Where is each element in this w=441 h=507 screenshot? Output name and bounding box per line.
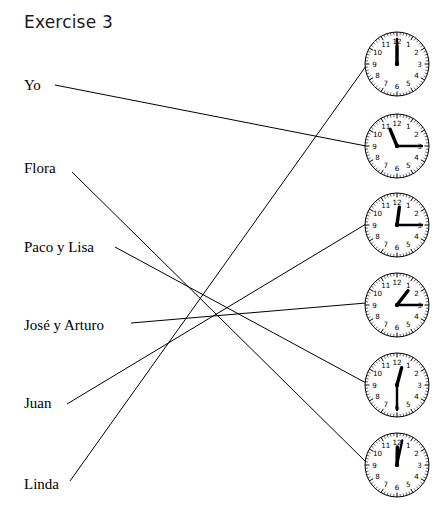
clock-numeral-4: 4 — [414, 71, 419, 80]
clock-numeral-7: 7 — [383, 400, 388, 409]
clock-numeral-5: 5 — [406, 240, 411, 249]
clock-hour-hand — [397, 207, 399, 225]
clock-numeral-9: 9 — [372, 60, 377, 69]
clock-numeral-5: 5 — [406, 400, 411, 409]
clock-face-clock-2[interactable]: 123456789101112 — [361, 110, 433, 182]
clock-faces-layer: 1234567891011121234567891011121234567891… — [0, 0, 441, 507]
clock-numeral-9: 9 — [372, 221, 377, 230]
clock-numeral-1: 1 — [406, 201, 411, 210]
clock-numeral-4: 4 — [414, 232, 419, 241]
clock-center-hub — [395, 223, 399, 227]
clock-numeral-7: 7 — [383, 240, 388, 249]
clock-numeral-8: 8 — [375, 71, 380, 80]
clock-numeral-10: 10 — [373, 130, 383, 139]
clock-numeral-10: 10 — [373, 209, 383, 218]
clock-numeral-8: 8 — [375, 153, 380, 162]
clock-face-clock-3[interactable]: 123456789101112 — [361, 189, 433, 261]
clock-numeral-7: 7 — [383, 79, 388, 88]
clock-numeral-12: 12 — [392, 358, 401, 367]
clock-numeral-1: 1 — [406, 122, 411, 131]
clock-numeral-11: 11 — [381, 281, 390, 290]
clock-center-hub — [395, 62, 399, 66]
clock-center-hub — [395, 463, 399, 467]
clock-numeral-1: 1 — [406, 281, 411, 290]
clock-numeral-9: 9 — [372, 142, 377, 151]
clock-numeral-6: 6 — [395, 82, 400, 91]
clock-numeral-4: 4 — [414, 392, 419, 401]
clock-numeral-12: 12 — [392, 119, 401, 128]
clock-numeral-9: 9 — [372, 461, 377, 470]
clock-numeral-2: 2 — [414, 449, 419, 458]
worksheet-canvas: Exercise 3 YoFloraPaco y LisaJosé y Artu… — [0, 0, 441, 507]
clock-numeral-5: 5 — [406, 79, 411, 88]
clock-numeral-6: 6 — [395, 323, 400, 332]
clock-numeral-8: 8 — [375, 232, 380, 241]
clock-numeral-6: 6 — [395, 483, 400, 492]
clock-numeral-2: 2 — [414, 369, 419, 378]
clock-numeral-3: 3 — [417, 461, 422, 470]
clock-numeral-10: 10 — [373, 369, 383, 378]
clock-numeral-9: 9 — [372, 301, 377, 310]
clock-face-clock-6[interactable]: 123456789101112 — [361, 429, 433, 501]
clock-numeral-11: 11 — [381, 40, 390, 49]
clock-numeral-1: 1 — [406, 40, 411, 49]
clock-numeral-5: 5 — [406, 480, 411, 489]
clock-numeral-2: 2 — [414, 289, 419, 298]
clock-numeral-1: 1 — [406, 361, 411, 370]
clock-numeral-7: 7 — [383, 320, 388, 329]
clock-center-hub — [395, 303, 399, 307]
clock-center-hub — [395, 144, 399, 148]
clock-numeral-7: 7 — [383, 480, 388, 489]
clock-numeral-10: 10 — [373, 289, 383, 298]
clock-numeral-6: 6 — [395, 164, 400, 173]
clock-numeral-8: 8 — [375, 392, 380, 401]
clock-numeral-2: 2 — [414, 209, 419, 218]
clock-numeral-3: 3 — [417, 381, 422, 390]
clock-numeral-1: 1 — [406, 441, 411, 450]
clock-numeral-11: 11 — [381, 441, 390, 450]
clock-numeral-5: 5 — [406, 320, 411, 329]
clock-face-clock-5[interactable]: 123456789101112 — [361, 349, 433, 421]
clock-numeral-7: 7 — [383, 161, 388, 170]
clock-numeral-8: 8 — [375, 472, 380, 481]
clock-numeral-5: 5 — [406, 161, 411, 170]
clock-numeral-9: 9 — [372, 381, 377, 390]
clock-numeral-11: 11 — [381, 201, 390, 210]
clock-numeral-12: 12 — [392, 278, 401, 287]
clock-numeral-6: 6 — [395, 243, 400, 252]
clock-face-clock-4[interactable]: 123456789101112 — [361, 269, 433, 341]
clock-face-clock-1[interactable]: 123456789101112 — [361, 28, 433, 100]
clock-numeral-4: 4 — [414, 153, 419, 162]
clock-numeral-8: 8 — [375, 312, 380, 321]
clock-numeral-2: 2 — [414, 130, 419, 139]
clock-numeral-10: 10 — [373, 449, 383, 458]
clock-numeral-4: 4 — [414, 312, 419, 321]
clock-numeral-3: 3 — [417, 60, 422, 69]
clock-center-hub — [395, 383, 399, 387]
clock-numeral-4: 4 — [414, 472, 419, 481]
clock-numeral-10: 10 — [373, 48, 383, 57]
clock-numeral-11: 11 — [381, 361, 390, 370]
clock-numeral-2: 2 — [414, 48, 419, 57]
